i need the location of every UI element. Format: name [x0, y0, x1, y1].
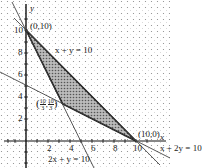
y-axis-label: y	[30, 4, 34, 13]
x-tick-label: 6	[91, 144, 96, 153]
line-label-x-plus-y: x + y = 10	[55, 46, 92, 55]
y-tick-label: 8	[18, 48, 23, 57]
line-label-x-plus-2y: x + 2y = 10	[160, 144, 202, 153]
x-tick-label: 2	[47, 144, 52, 153]
x-tick-label: 4	[69, 144, 74, 153]
line-label-2x-plus-y: 2x + y = 10	[48, 155, 90, 164]
x-tick-label: 8	[113, 144, 118, 153]
vertex-label-0-10: (0,10)	[30, 22, 52, 31]
y-tick-label: 2	[18, 114, 23, 123]
y-tick-label: 6	[18, 70, 23, 79]
y-tick-label: 4	[18, 92, 23, 101]
x-tick-label: 10	[133, 144, 142, 153]
vertex-label-intersection: (103,103)	[36, 98, 57, 111]
vertex-label-10-0: (10,0)	[138, 130, 160, 139]
y-tick-label: 10	[14, 26, 23, 35]
x-axis-label: x	[160, 133, 164, 142]
